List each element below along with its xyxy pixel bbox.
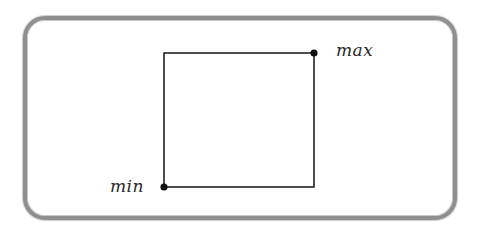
min-point-marker <box>160 183 167 190</box>
min-label: min <box>110 176 144 196</box>
max-label: max <box>336 40 373 60</box>
bounding-rectangle <box>164 53 314 187</box>
bounding-box-diagram <box>0 0 480 232</box>
max-point-marker <box>310 49 317 56</box>
